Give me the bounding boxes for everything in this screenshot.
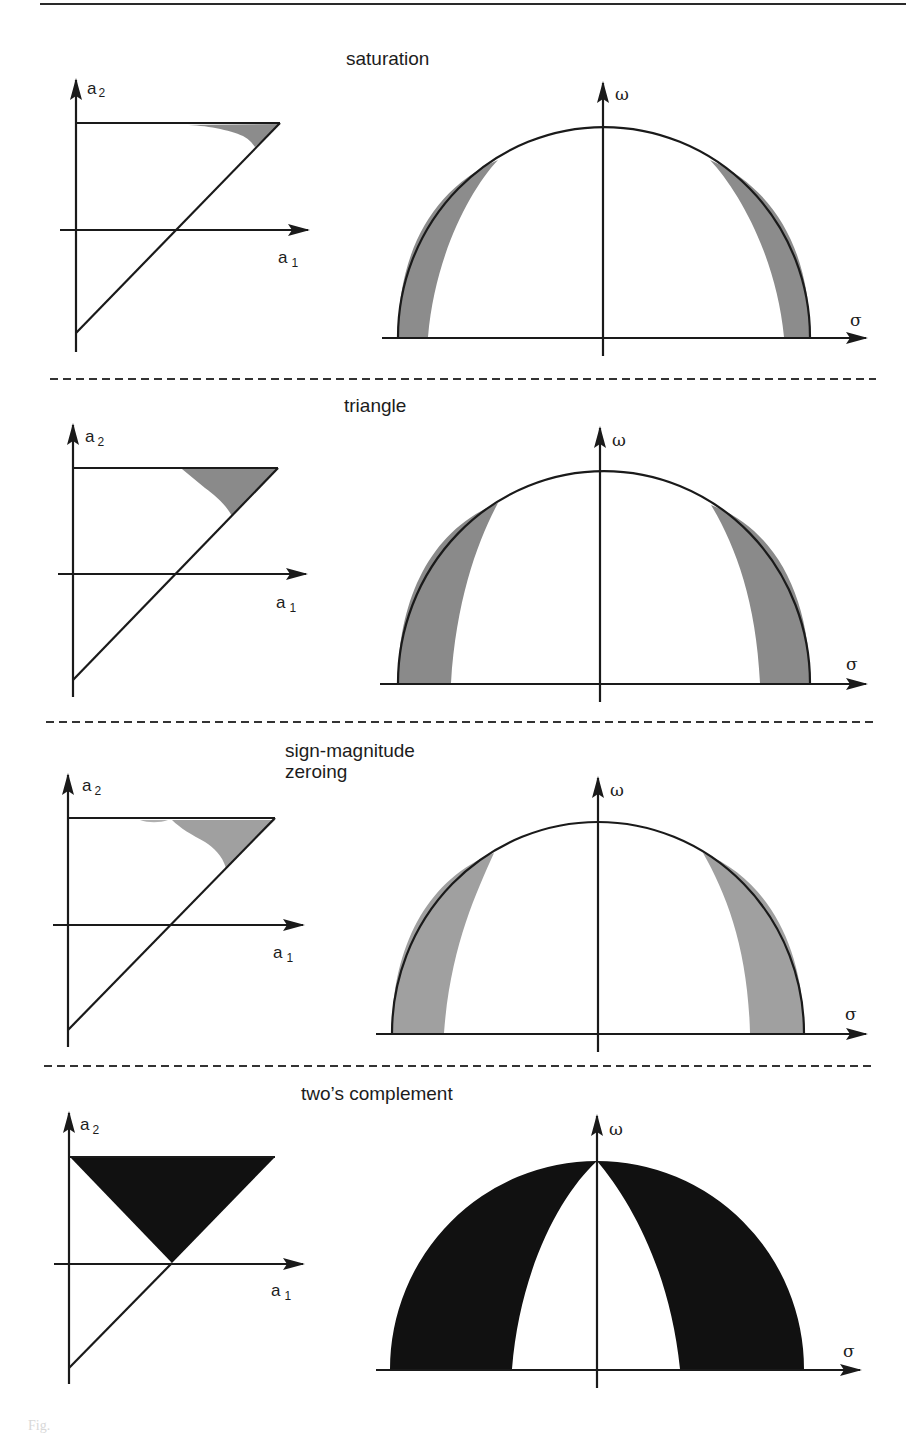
sigma-label: σ xyxy=(843,1341,855,1361)
shaded-region xyxy=(398,503,498,683)
shaded-region xyxy=(172,820,275,868)
shaded-region xyxy=(185,124,280,147)
shaded-region xyxy=(398,160,498,337)
caption-fragment: Fig. xyxy=(28,1418,50,1434)
shaded-region xyxy=(710,160,810,337)
sigma-label: σ xyxy=(845,1004,857,1024)
shaded-region xyxy=(703,853,804,1033)
shaded-region xyxy=(70,1157,275,1263)
coef-plot-saturation: a2 a1 xyxy=(60,79,308,352)
a1-label: a1 xyxy=(278,248,298,270)
shaded-region xyxy=(182,469,278,516)
coef-plot-sign-magnitude: a2 a1 xyxy=(53,775,303,1047)
pole-plot-sign-magnitude: ω σ xyxy=(376,778,866,1052)
panel-sign-magnitude-zeroing: a2 a1 ω σ xyxy=(53,775,866,1052)
shaded-region xyxy=(392,853,494,1033)
shaded-region xyxy=(140,820,168,822)
coef-plot-twos-complement: a2 a1 xyxy=(54,1113,303,1384)
sigma-label: σ xyxy=(850,310,862,330)
panel-triangle: a2 a1 ω σ xyxy=(58,425,866,702)
sigma-label: σ xyxy=(846,654,858,674)
omega-label: ω xyxy=(609,1119,623,1139)
omega-label: ω xyxy=(610,780,624,800)
a2-label: a2 xyxy=(87,79,105,100)
a2-label: a2 xyxy=(82,776,101,798)
a1-label: a1 xyxy=(276,593,296,615)
a1-label: a1 xyxy=(271,1281,291,1303)
shaded-region xyxy=(597,1161,804,1369)
omega-label: ω xyxy=(612,430,626,450)
panel-saturation: a2 a1 ω σ xyxy=(60,79,866,356)
pole-plot-saturation: ω σ xyxy=(382,83,866,356)
pole-plot-twos-complement: ω σ xyxy=(376,1116,860,1388)
a2-label: a2 xyxy=(80,1115,99,1137)
shaded-region xyxy=(390,1161,597,1369)
shaded-region xyxy=(711,505,810,683)
coef-plot-triangle: a2 a1 xyxy=(58,425,306,697)
panel-twos-complement: a2 a1 ω σ xyxy=(54,1113,860,1388)
a2-label: a2 xyxy=(85,427,104,449)
pole-plot-triangle: ω σ xyxy=(380,428,866,702)
a1-label: a1 xyxy=(273,943,293,965)
omega-label: ω xyxy=(615,84,629,104)
